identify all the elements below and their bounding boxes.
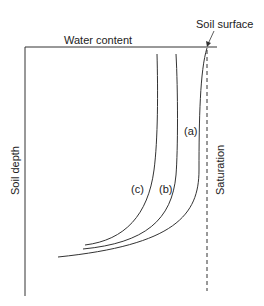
curve-a — [58, 48, 207, 257]
surface-arrow — [208, 31, 214, 44]
curve-c-label: (c) — [131, 183, 144, 195]
curve-c — [85, 54, 158, 245]
soil-water-diagram: Water content Soil surface Soil depth Sa… — [0, 0, 264, 306]
curve-b-label: (b) — [159, 183, 172, 195]
arrowhead-icon — [206, 41, 211, 47]
curve-a-label: (a) — [184, 125, 197, 137]
x-axis-label: Water content — [64, 34, 132, 46]
surface-label: Soil surface — [196, 18, 253, 30]
y-axis-label: Soil depth — [9, 146, 21, 195]
curve-b — [83, 54, 178, 249]
saturation-label: Saturation — [214, 145, 226, 195]
